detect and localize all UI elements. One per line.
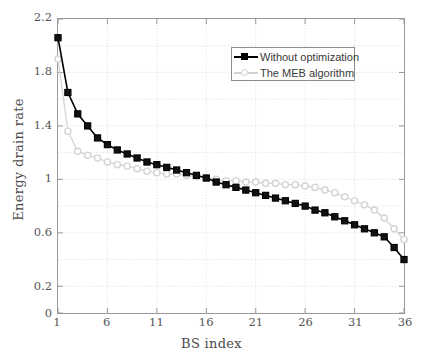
data-point-marker xyxy=(104,142,110,148)
y-tick-label-5: 1.8 xyxy=(10,66,52,77)
data-point-marker xyxy=(401,256,407,262)
data-point-marker xyxy=(371,207,377,213)
data-point-marker xyxy=(302,183,308,189)
data-point-marker xyxy=(114,162,120,168)
chart-figure: 00.20.611.41.82.2 16111621263136 Energy … xyxy=(0,0,423,364)
legend-entry-meb-algorithm[interactable]: The MEB algorithm xyxy=(232,65,354,81)
data-point-marker xyxy=(203,175,209,181)
x-tick-label-7: 36 xyxy=(390,317,420,328)
data-point-marker xyxy=(342,218,348,224)
data-point-marker xyxy=(312,207,318,213)
data-point-marker xyxy=(85,152,91,158)
y-axis-label: Energy drain rate xyxy=(11,80,26,240)
data-point-marker xyxy=(65,89,71,95)
x-tick-label-3: 16 xyxy=(191,317,221,328)
legend-label-1: The MEB algorithm xyxy=(260,67,354,79)
data-point-marker xyxy=(391,226,397,232)
x-axis-label: BS index xyxy=(0,336,423,351)
data-point-marker xyxy=(144,159,150,165)
data-point-marker xyxy=(193,172,199,178)
data-point-marker xyxy=(312,184,318,190)
data-point-marker xyxy=(75,148,81,154)
y-tick-label-1: 0.2 xyxy=(10,281,52,292)
data-point-marker xyxy=(94,155,100,161)
data-point-marker xyxy=(381,215,387,221)
data-point-marker xyxy=(75,111,81,117)
data-point-marker xyxy=(183,170,189,176)
data-point-marker xyxy=(253,190,259,196)
data-point-marker xyxy=(401,236,407,242)
data-point-marker xyxy=(332,190,338,196)
data-point-marker xyxy=(272,180,278,186)
x-tick-label-1: 6 xyxy=(92,317,122,328)
data-point-marker xyxy=(134,155,140,161)
data-point-marker xyxy=(243,179,249,185)
data-point-marker xyxy=(154,170,160,176)
data-point-marker xyxy=(233,184,239,190)
data-point-marker xyxy=(154,162,160,168)
data-point-marker xyxy=(361,226,367,232)
data-point-marker xyxy=(292,200,298,206)
data-point-marker xyxy=(263,192,269,198)
data-point-marker xyxy=(351,198,357,204)
x-tick-label-6: 31 xyxy=(340,317,370,328)
data-point-marker xyxy=(381,234,387,240)
data-point-marker xyxy=(94,135,100,141)
x-tick-label-0: 1 xyxy=(42,317,72,328)
legend: Without optimization The MEB algorithm xyxy=(231,47,355,81)
data-point-marker xyxy=(144,168,150,174)
data-point-marker xyxy=(85,123,91,129)
data-point-marker xyxy=(371,230,377,236)
data-point-marker xyxy=(55,56,61,62)
data-point-marker xyxy=(302,203,308,209)
data-point-marker xyxy=(134,166,140,172)
legend-swatch-square-icon xyxy=(232,49,260,65)
x-tick-label-5: 26 xyxy=(291,317,321,328)
data-point-marker xyxy=(233,178,239,184)
data-point-marker xyxy=(263,180,269,186)
series-line-1 xyxy=(58,59,404,239)
legend-swatch-circle-icon xyxy=(232,65,260,81)
data-point-marker xyxy=(361,202,367,208)
data-point-marker xyxy=(124,151,130,157)
data-point-marker xyxy=(164,164,170,170)
data-point-marker xyxy=(65,128,71,134)
data-point-marker xyxy=(104,159,110,165)
data-point-marker xyxy=(322,187,328,193)
data-point-marker xyxy=(213,179,219,185)
data-point-marker xyxy=(223,182,229,188)
data-point-marker xyxy=(114,147,120,153)
x-tick-label-4: 21 xyxy=(241,317,271,328)
data-point-marker xyxy=(174,167,180,173)
data-point-marker xyxy=(55,35,61,41)
data-point-marker xyxy=(124,163,130,169)
data-point-marker xyxy=(332,214,338,220)
data-point-marker xyxy=(272,195,278,201)
x-tick-label-2: 11 xyxy=(141,317,171,328)
data-point-marker xyxy=(351,222,357,228)
data-point-marker xyxy=(391,244,397,250)
legend-label-0: Without optimization xyxy=(260,51,359,63)
data-point-marker xyxy=(282,182,288,188)
y-tick-label-6: 2.2 xyxy=(10,12,52,23)
legend-entry-without-optimization[interactable]: Without optimization xyxy=(232,49,354,65)
data-point-marker xyxy=(292,182,298,188)
data-point-marker xyxy=(322,210,328,216)
data-point-marker xyxy=(282,198,288,204)
data-point-marker xyxy=(164,171,170,177)
data-point-marker xyxy=(253,179,259,185)
data-point-marker xyxy=(243,187,249,193)
data-point-marker xyxy=(342,194,348,200)
